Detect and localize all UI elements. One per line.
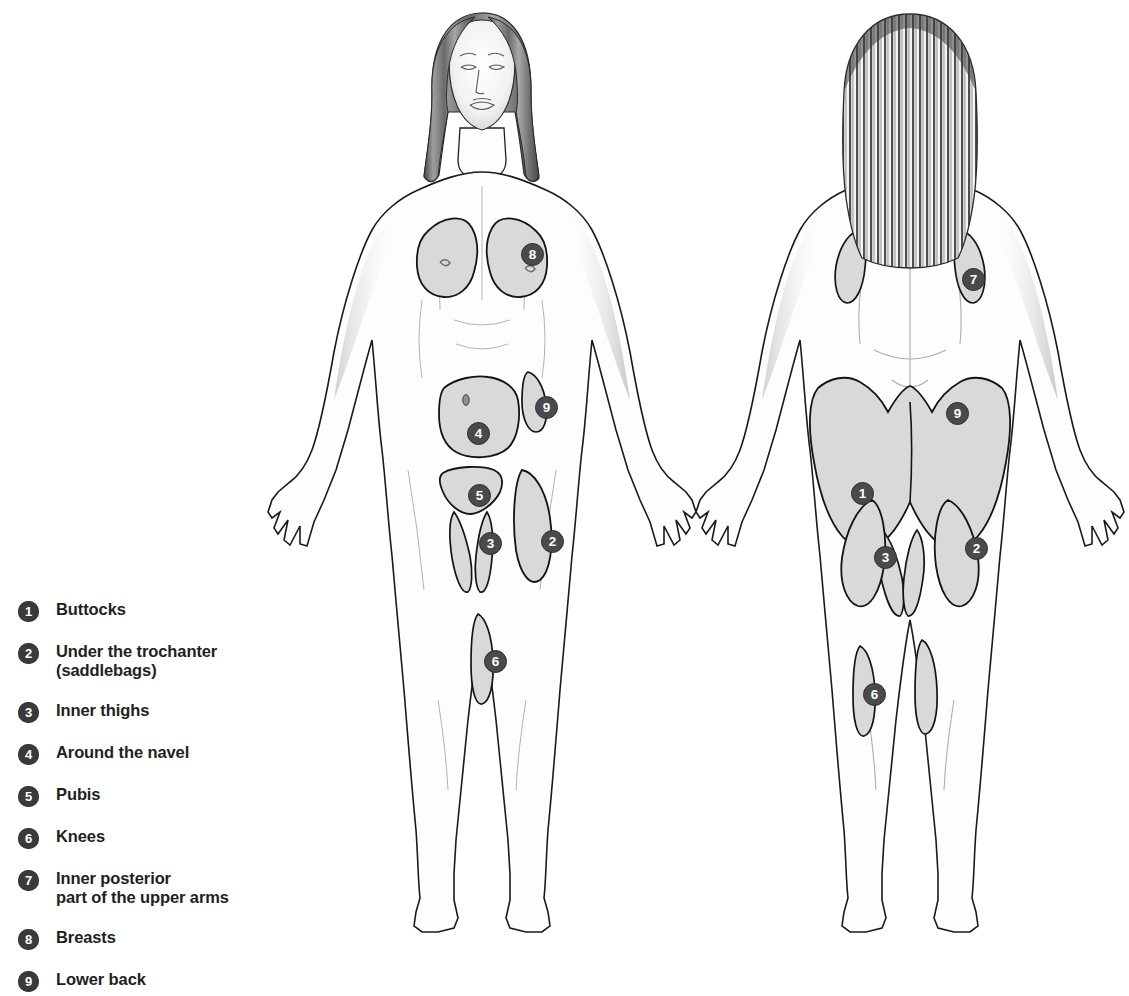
- marker-label: 6: [492, 654, 500, 668]
- marker-back-7[interactable]: 7: [962, 268, 985, 291]
- marker-label: 9: [543, 400, 551, 414]
- legend-badge-4: 4: [18, 744, 39, 765]
- legend-label-2: Under the trochanter (saddlebags): [56, 642, 217, 681]
- legend: 1 Buttocks 2 Under the trochanter (saddl…: [18, 600, 318, 996]
- marker-label: 4: [475, 426, 483, 440]
- marker-back-6[interactable]: 6: [863, 683, 886, 706]
- marker-back-3[interactable]: 3: [874, 546, 897, 569]
- legend-badge-6: 6: [18, 828, 39, 849]
- legend-item-7[interactable]: 7 Inner posterior part of the upper arms: [18, 869, 318, 908]
- marker-back-2[interactable]: 2: [965, 537, 988, 560]
- marker-front-3[interactable]: 3: [479, 532, 502, 555]
- legend-label-5: Pubis: [56, 785, 100, 804]
- marker-label: 9: [954, 406, 962, 420]
- legend-label-3: Inner thighs: [56, 701, 149, 720]
- back-body-group: [696, 14, 1124, 932]
- marker-front-2[interactable]: 2: [541, 530, 564, 553]
- marker-front-8[interactable]: 8: [521, 243, 544, 266]
- marker-label: 2: [973, 541, 981, 555]
- marker-label: 7: [970, 272, 978, 286]
- marker-label: 3: [882, 550, 890, 564]
- legend-badge-2: 2: [18, 643, 39, 664]
- legend-item-1[interactable]: 1 Buttocks: [18, 600, 318, 622]
- marker-label: 6: [871, 687, 879, 701]
- legend-item-4[interactable]: 4 Around the navel: [18, 743, 318, 765]
- zone-around-navel: [439, 376, 519, 457]
- legend-badge-1: 1: [18, 601, 39, 622]
- legend-badge-7: 7: [18, 870, 39, 891]
- marker-back-1[interactable]: 1: [851, 482, 874, 505]
- legend-badge-3: 3: [18, 702, 39, 723]
- marker-front-6[interactable]: 6: [484, 650, 507, 673]
- marker-label: 1: [859, 486, 867, 500]
- legend-label-8: Breasts: [56, 928, 116, 947]
- legend-item-8[interactable]: 8 Breasts: [18, 928, 318, 950]
- legend-item-3[interactable]: 3 Inner thighs: [18, 701, 318, 723]
- legend-item-9[interactable]: 9 Lower back: [18, 970, 318, 992]
- legend-badge-8: 8: [18, 929, 39, 950]
- marker-label: 3: [487, 536, 495, 550]
- marker-front-5[interactable]: 5: [468, 484, 491, 507]
- legend-item-2[interactable]: 2 Under the trochanter (saddlebags): [18, 642, 318, 681]
- marker-back-9[interactable]: 9: [946, 402, 969, 425]
- marker-label: 5: [476, 488, 484, 502]
- marker-label: 2: [549, 534, 557, 548]
- legend-item-6[interactable]: 6 Knees: [18, 827, 318, 849]
- legend-label-4: Around the navel: [56, 743, 189, 762]
- marker-label: 8: [529, 247, 537, 261]
- figure-back-view: 7 9 1 2 3 6: [660, 0, 1129, 959]
- marker-front-9[interactable]: 9: [535, 396, 558, 419]
- legend-label-1: Buttocks: [56, 600, 126, 619]
- legend-label-6: Knees: [56, 827, 105, 846]
- navel-mark: [463, 395, 469, 406]
- legend-label-9: Lower back: [56, 970, 146, 989]
- legend-badge-5: 5: [18, 786, 39, 807]
- marker-front-4[interactable]: 4: [467, 422, 490, 445]
- front-body-group: [268, 13, 696, 932]
- legend-badge-9: 9: [18, 971, 39, 992]
- neck-front: [458, 128, 506, 178]
- legend-label-7: Inner posterior part of the upper arms: [56, 869, 229, 908]
- legend-item-5[interactable]: 5 Pubis: [18, 785, 318, 807]
